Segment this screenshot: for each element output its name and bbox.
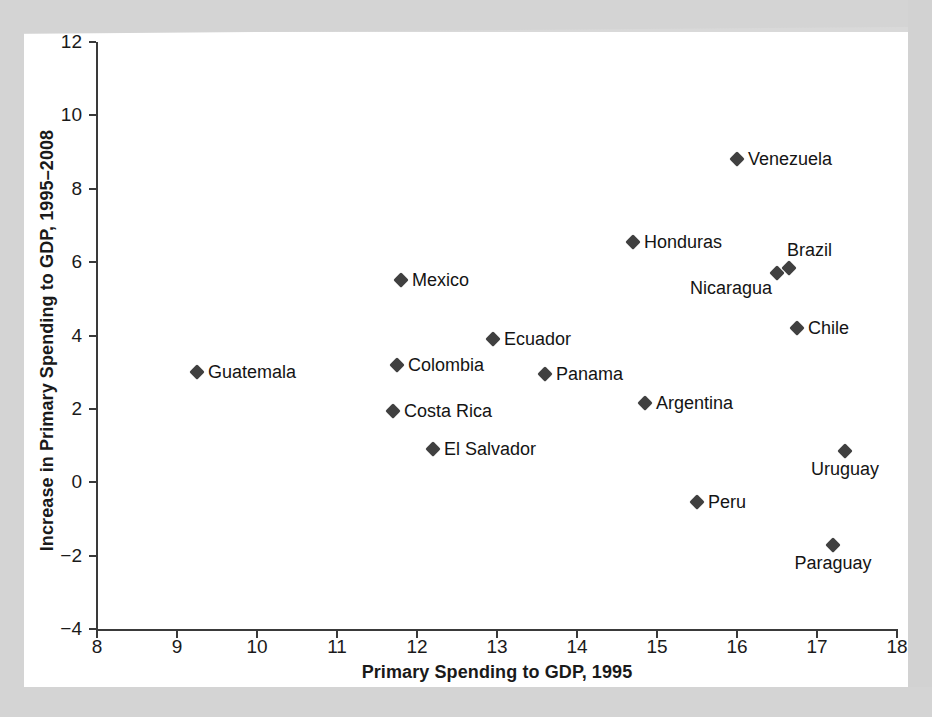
- x-tick-label: 9: [157, 636, 197, 658]
- data-point-marker[interactable]: [825, 537, 841, 553]
- data-point-label: Uruguay: [811, 460, 879, 478]
- y-axis-line: [96, 42, 98, 631]
- data-point-marker[interactable]: [729, 152, 745, 168]
- data-point-marker[interactable]: [689, 495, 705, 511]
- x-tick-label: 13: [477, 636, 517, 658]
- data-point-label: Brazil: [787, 241, 832, 259]
- y-tick-label: −4: [38, 618, 82, 640]
- x-tick-label: 16: [717, 636, 757, 658]
- x-tick-label: 14: [557, 636, 597, 658]
- data-point-label: Honduras: [644, 233, 722, 251]
- data-point-label: Mexico: [412, 271, 469, 289]
- data-point-label: El Salvador: [444, 440, 536, 458]
- y-tick-mark: [89, 41, 96, 43]
- x-axis-title: Primary Spending to GDP, 1995: [96, 662, 898, 683]
- data-point-marker[interactable]: [625, 234, 641, 250]
- y-axis-title: Increase in Primary Spending to GDP, 199…: [37, 61, 58, 621]
- y-tick-mark: [89, 335, 96, 337]
- data-point-marker[interactable]: [189, 364, 205, 380]
- data-point-marker[interactable]: [485, 331, 501, 347]
- data-point-label: Chile: [808, 319, 849, 337]
- data-point-label: Ecuador: [504, 330, 571, 348]
- figure-page: −4−2024681012 89101112131415161718 Incre…: [0, 0, 932, 717]
- data-point-label: Panama: [556, 365, 623, 383]
- x-tick-label: 17: [797, 636, 837, 658]
- x-tick-label: 8: [77, 636, 117, 658]
- data-point-label: Colombia: [408, 356, 484, 374]
- data-point-label: Guatemala: [208, 363, 296, 381]
- data-point-label: Venezuela: [748, 150, 832, 168]
- data-point-label: Argentina: [656, 394, 733, 412]
- y-tick-mark: [89, 261, 96, 263]
- x-tick-label: 12: [397, 636, 437, 658]
- data-point-marker[interactable]: [425, 441, 441, 457]
- x-tick-label: 11: [317, 636, 357, 658]
- y-tick-mark: [89, 628, 96, 630]
- y-tick-mark: [89, 555, 96, 557]
- data-point-marker[interactable]: [637, 396, 653, 412]
- y-tick-mark: [89, 481, 96, 483]
- y-tick-mark: [89, 408, 96, 410]
- data-point-label: Paraguay: [794, 554, 871, 572]
- scatter-chart: −4−2024681012 89101112131415161718 Incre…: [0, 0, 932, 717]
- x-tick-label: 15: [637, 636, 677, 658]
- y-tick-mark: [89, 114, 96, 116]
- y-tick-label: 12: [38, 31, 82, 53]
- data-point-marker[interactable]: [385, 403, 401, 419]
- x-tick-label: 10: [237, 636, 277, 658]
- data-point-label: Peru: [708, 493, 746, 511]
- data-point-marker[interactable]: [389, 357, 405, 373]
- data-point-marker[interactable]: [537, 366, 553, 382]
- data-point-marker[interactable]: [837, 443, 853, 459]
- data-point-marker[interactable]: [789, 320, 805, 336]
- x-tick-label: 18: [877, 636, 917, 658]
- data-point-label: Nicaragua: [690, 279, 772, 297]
- y-tick-mark: [89, 188, 96, 190]
- data-point-label: Costa Rica: [404, 402, 492, 420]
- data-point-marker[interactable]: [393, 273, 409, 289]
